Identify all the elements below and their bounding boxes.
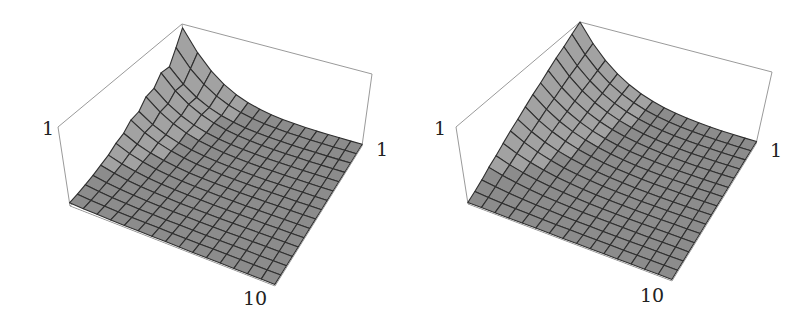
y-axis-tick-label: 1: [376, 138, 388, 160]
surface-plot-right: 1 1 10: [434, 22, 782, 306]
x-axis-tick-label: 10: [640, 284, 664, 306]
z-axis-tick-label: 1: [42, 117, 54, 139]
surface-mesh: [468, 22, 757, 280]
y-axis-tick-label: 1: [770, 139, 782, 161]
z-axis-tick-label: 1: [434, 117, 446, 139]
surface-mesh: [70, 28, 363, 285]
surface-plot-left: 1 1 10: [42, 24, 388, 309]
x-axis-tick-label: 10: [243, 287, 267, 309]
figure-canvas: 1 1 10 1 1 10: [0, 0, 810, 325]
